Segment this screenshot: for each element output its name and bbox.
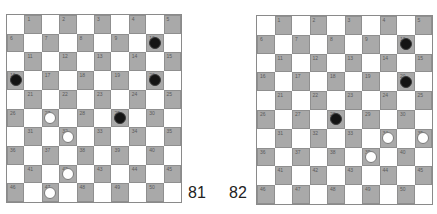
light-square — [111, 52, 128, 71]
light-square — [111, 127, 128, 146]
light-square — [59, 146, 76, 165]
light-square — [94, 146, 111, 165]
square-number: 21 — [278, 93, 284, 98]
light-square — [310, 185, 328, 204]
light-square — [77, 127, 94, 146]
square-number: 18 — [80, 73, 86, 78]
square-number: 15 — [167, 54, 173, 59]
square-number: 25 — [418, 93, 424, 98]
light-square — [59, 71, 76, 90]
square-number: 26 — [260, 112, 266, 117]
light-square — [24, 146, 41, 165]
light-square — [275, 185, 293, 204]
light-square — [310, 35, 328, 54]
light-square — [164, 71, 181, 90]
square-number: 44 — [132, 167, 138, 172]
square-47: 47 — [42, 183, 59, 202]
square-number: 5 — [418, 18, 421, 23]
square-number: 27 — [295, 112, 301, 117]
square-number: 33 — [348, 131, 354, 136]
square-number: 16 — [260, 74, 266, 79]
light-square — [94, 183, 111, 202]
black-piece-icon — [10, 74, 22, 86]
square-number: 22 — [62, 92, 68, 97]
light-square — [7, 52, 24, 71]
black-piece-icon — [330, 113, 342, 125]
light-square — [24, 109, 41, 128]
square-number: 15 — [418, 56, 424, 61]
white-piece-icon — [417, 132, 429, 144]
square-41: 41 — [275, 166, 293, 185]
square-number: 7 — [45, 36, 48, 41]
light-square — [164, 34, 181, 53]
square-48: 48 — [327, 185, 345, 204]
draughts-board-81: 1234567891011121314151617181920212223242… — [6, 14, 182, 203]
square-49: 49 — [362, 185, 380, 204]
square-38: 38 — [77, 146, 94, 165]
square-11: 11 — [275, 54, 293, 73]
square-number: 37 — [295, 150, 301, 155]
square-number: 24 — [132, 92, 138, 97]
square-43: 43 — [94, 165, 111, 184]
square-number: 45 — [418, 168, 424, 173]
square-46: 46 — [7, 183, 24, 202]
square-41: 41 — [24, 165, 41, 184]
light-square — [275, 110, 293, 129]
light-square — [24, 71, 41, 90]
square-36: 36 — [7, 146, 24, 165]
square-2: 2 — [310, 16, 328, 35]
square-number: 40 — [400, 150, 406, 155]
light-square — [42, 165, 59, 184]
square-number: 40 — [149, 148, 155, 153]
square-13: 13 — [345, 54, 363, 73]
square-number: 8 — [330, 37, 333, 42]
square-number: 9 — [365, 37, 368, 42]
square-9: 9 — [111, 34, 128, 53]
square-number: 8 — [80, 36, 83, 41]
square-3: 3 — [94, 15, 111, 34]
light-square — [415, 148, 433, 167]
light-square — [397, 16, 415, 35]
square-number: 19 — [365, 74, 371, 79]
square-number: 41 — [27, 167, 33, 172]
square-30: 30 — [397, 110, 415, 129]
square-25: 25 — [415, 91, 433, 110]
square-16: 16 — [257, 72, 275, 91]
square-number: 4 — [132, 17, 135, 22]
light-square — [292, 129, 310, 148]
square-number: 2 — [313, 18, 316, 23]
square-number: 11 — [278, 56, 283, 61]
square-14: 14 — [129, 52, 146, 71]
light-square — [292, 54, 310, 73]
square-number: 45 — [167, 167, 173, 172]
square-49: 49 — [111, 183, 128, 202]
light-square — [164, 183, 181, 202]
square-number: 43 — [97, 167, 103, 172]
light-square — [94, 109, 111, 128]
light-square — [77, 15, 94, 34]
diagram-label-81: 81 — [188, 184, 206, 202]
square-27: 27 — [42, 109, 59, 128]
square-44: 44 — [380, 166, 398, 185]
square-17: 17 — [292, 72, 310, 91]
light-square — [292, 16, 310, 35]
light-square — [327, 129, 345, 148]
square-1: 1 — [275, 16, 293, 35]
light-square — [275, 72, 293, 91]
square-19: 19 — [362, 72, 380, 91]
square-number: 47 — [295, 187, 301, 192]
light-square — [310, 72, 328, 91]
square-24: 24 — [380, 91, 398, 110]
square-number: 38 — [330, 150, 336, 155]
square-number: 30 — [400, 112, 406, 117]
light-square — [362, 91, 380, 110]
square-46: 46 — [257, 185, 275, 204]
square-number: 39 — [114, 148, 120, 153]
light-square — [310, 148, 328, 167]
light-square — [327, 16, 345, 35]
light-square — [77, 165, 94, 184]
white-piece-icon — [382, 132, 394, 144]
square-28: 28 — [327, 110, 345, 129]
square-20: 20 — [397, 72, 415, 91]
light-square — [164, 146, 181, 165]
